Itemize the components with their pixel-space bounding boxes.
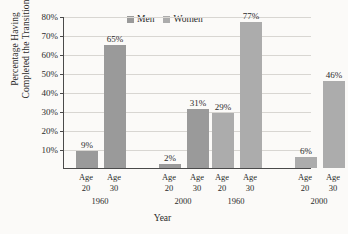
bar-men-1960-age20: 9%	[76, 151, 98, 168]
y-axis-tick	[60, 55, 64, 56]
age-label-line-2: 30	[235, 183, 265, 194]
gridline	[64, 93, 311, 94]
y-axis-tick	[60, 17, 64, 18]
bar-value-label: 77%	[243, 11, 260, 21]
y-axis-tick	[60, 131, 64, 132]
bar-value-label: 6%	[300, 146, 312, 156]
y-axis-title-line-1: Percentage Having	[10, 0, 21, 124]
y-axis-tick	[60, 150, 64, 151]
y-axis-title-line-2: Completed the Transition	[21, 0, 32, 124]
y-axis-tick	[60, 74, 64, 75]
y-axis-tick	[60, 112, 64, 113]
y-axis-tick-label: 50%	[42, 69, 59, 79]
y-axis-tick	[60, 36, 64, 37]
bar-fill	[187, 109, 209, 168]
bar-men-2000-age20: 2%	[159, 164, 181, 168]
bar-fill	[240, 22, 262, 168]
y-axis-tick-label: 60%	[42, 50, 59, 60]
bar-fill	[323, 81, 345, 168]
age-label-line-1: Age	[99, 172, 129, 183]
bar-women-2000-age30: 46%	[323, 81, 345, 168]
x-axis-age-label: Age20	[290, 172, 320, 193]
age-label-line-1: Age	[235, 172, 265, 183]
bar-fill	[76, 151, 98, 168]
age-label-line-2: 30	[99, 183, 129, 194]
y-axis-tick-label: 40%	[42, 88, 59, 98]
age-label-line-1: Age	[290, 172, 320, 183]
gridline	[64, 74, 311, 75]
age-label-line-1: Age	[318, 172, 348, 183]
age-label-line-2: 20	[71, 183, 101, 194]
age-label-line-1: Age	[154, 172, 184, 183]
age-label-line-2: 20	[290, 183, 320, 194]
bar-value-label: 2%	[164, 153, 176, 163]
x-axis-age-label: Age20	[154, 172, 184, 193]
age-label-line-1: Age	[207, 172, 237, 183]
bar-value-label: 65%	[107, 34, 124, 44]
x-axis-year-label: 1960	[73, 196, 127, 206]
x-axis-age-label: Age20	[207, 172, 237, 193]
y-axis-tick	[60, 93, 64, 94]
x-axis-age-label: Age30	[99, 172, 129, 193]
gridline	[64, 55, 311, 56]
bar-men-1960-age30: 65%	[104, 45, 126, 169]
age-label-line-2: 30	[318, 183, 348, 194]
age-label-line-2: 20	[207, 183, 237, 194]
x-axis-age-label: Age20	[71, 172, 101, 193]
age-label-line-1: Age	[71, 172, 101, 183]
bar-fill	[212, 113, 234, 168]
x-axis-age-label: Age30	[318, 172, 348, 193]
bar-value-label: 9%	[81, 140, 93, 150]
bar-value-label: 31%	[190, 98, 207, 108]
bar-fill	[159, 164, 181, 168]
y-axis-tick-label: 70%	[42, 31, 59, 41]
bar-women-1960-age20: 29%	[212, 113, 234, 168]
bar-women-1960-age30: 77%	[240, 22, 262, 168]
x-axis-year-label: 2000	[156, 196, 210, 206]
y-axis-title: Percentage Having Completed the Transiti…	[10, 0, 32, 124]
y-axis-tick-label: 20%	[42, 126, 59, 136]
gridline	[64, 17, 311, 18]
x-axis-title: Year	[0, 213, 325, 223]
bar-men-2000-age30: 31%	[187, 109, 209, 168]
bar-fill	[295, 157, 317, 168]
x-axis-year-label: 1960	[209, 196, 263, 206]
bar-value-label: 29%	[215, 102, 232, 112]
plot-area: 10%20%30%40%50%60%70%80%9%65%2%31%29%77%…	[63, 17, 311, 169]
age-label-line-2: 20	[154, 183, 184, 194]
y-axis-tick-label: 10%	[42, 145, 59, 155]
y-axis-tick-label: 30%	[42, 107, 59, 117]
bar-fill	[104, 45, 126, 169]
gridline	[64, 36, 311, 37]
x-axis-year-label: 2000	[292, 196, 346, 206]
y-axis-tick-label: 80%	[42, 12, 59, 22]
x-axis-age-label: Age30	[235, 172, 265, 193]
bar-women-2000-age20: 6%	[295, 157, 317, 168]
bar-value-label: 46%	[326, 70, 343, 80]
